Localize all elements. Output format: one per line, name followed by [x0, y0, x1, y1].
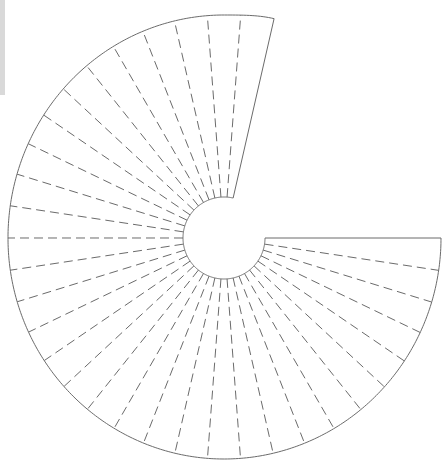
spiral-fan-diagram [0, 0, 448, 466]
dashed-fold-line [17, 174, 185, 226]
dashed-fold-line [227, 279, 240, 458]
dashed-fold-line [87, 66, 199, 206]
dashed-fold-line [10, 244, 183, 270]
dashed-fold-line [265, 244, 439, 270]
dashed-fold-line [261, 256, 420, 333]
fan-outline [8, 15, 441, 459]
dashed-fold-line [245, 274, 335, 429]
dashed-fold-line [207, 16, 221, 197]
dashed-fold-line [44, 115, 190, 215]
dashed-fold-line [113, 46, 203, 202]
dashed-fold-line [114, 274, 203, 429]
dashed-fold-line [17, 250, 185, 302]
dashed-fold-lines [8, 15, 439, 458]
dashed-fold-line [28, 144, 187, 221]
dashed-fold-line [29, 256, 188, 332]
dashed-fold-line [10, 206, 183, 232]
dashed-fold-line [258, 261, 404, 361]
dashed-fold-line [227, 15, 241, 197]
dashed-fold-line [250, 270, 361, 410]
dashed-fold-line [233, 278, 273, 453]
dashed-fold-line [44, 261, 190, 360]
dashed-fold-line [263, 250, 432, 302]
dashed-fold-line [87, 270, 198, 409]
dashed-fold-line [175, 278, 215, 453]
dashed-fold-line [174, 21, 214, 198]
dashed-fold-line [207, 279, 220, 458]
